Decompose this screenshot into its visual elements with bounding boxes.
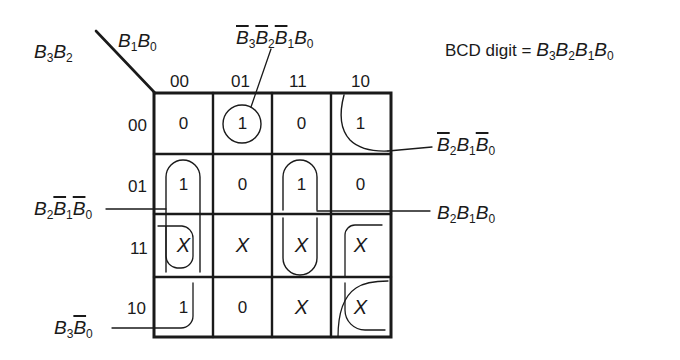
cell-01-11: 1 xyxy=(272,154,331,215)
cell-00-10: 1 xyxy=(331,93,390,154)
column-code-11: 11 xyxy=(289,73,307,90)
row-code-10: 10 xyxy=(127,300,146,317)
term-label-g1: B3B2B1B0 xyxy=(236,28,314,47)
column-code-00: 00 xyxy=(170,73,189,90)
cell-10-01: 0 xyxy=(213,277,272,338)
row-code-00: 00 xyxy=(128,117,147,134)
term-label-g5: B3B0 xyxy=(54,318,93,337)
cell-01-10: 0 xyxy=(331,154,390,215)
cell-11-00: X xyxy=(154,215,213,276)
cell-10-11: X xyxy=(272,277,331,338)
term-label-g2: B2B1B0 xyxy=(437,135,495,154)
cell-11-10: X xyxy=(331,215,390,276)
term-label-g4: B2B1B0 xyxy=(437,203,495,222)
cell-01-01: 0 xyxy=(213,154,272,215)
bcd-prefix: BCD digit = xyxy=(445,41,536,60)
cell-00-01: 1 xyxy=(213,93,272,154)
column-code-01: 01 xyxy=(231,73,250,90)
cell-01-00: 1 xyxy=(154,154,213,215)
leader-g2 xyxy=(388,147,432,151)
column-code-10: 10 xyxy=(351,73,370,90)
bcd-digit-caption: BCD digit = B3B2B1B0 xyxy=(445,40,614,59)
row-variables-label: B3B2 xyxy=(34,42,73,61)
cell-10-10: X xyxy=(331,277,390,338)
row-code-11: 11 xyxy=(130,240,148,257)
column-variables-label: B1B0 xyxy=(118,31,157,50)
cell-11-01: X xyxy=(213,215,272,276)
term-label-g3: B2B1B0 xyxy=(34,199,92,218)
cell-11-11: X xyxy=(272,215,331,276)
cell-00-00: 0 xyxy=(154,93,213,154)
row-code-01: 01 xyxy=(128,178,147,195)
cell-10-00: 1 xyxy=(154,277,213,338)
cell-00-11: 0 xyxy=(272,93,331,154)
